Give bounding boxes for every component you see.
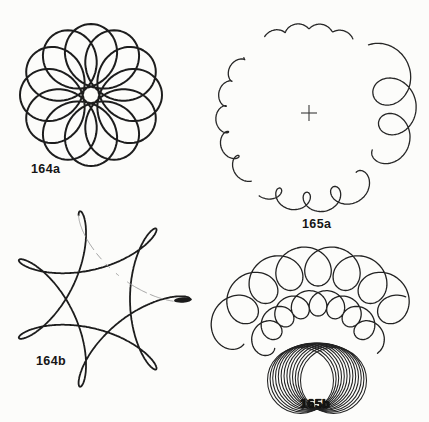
star-curve-164b-faint (79, 215, 189, 301)
outer-loop-arc-165b (211, 247, 409, 349)
figure-label-165a: 165a (302, 217, 331, 231)
growing-loop-circle-165a (216, 24, 416, 212)
figure-label-164b: 164b (36, 354, 66, 368)
scanned-figure-page: 164a 165a 164b 165b (0, 0, 429, 422)
rose-curve-164a (20, 24, 162, 166)
figure-label-164a: 164a (31, 162, 60, 176)
figure-label-165b: 165b (300, 397, 330, 411)
